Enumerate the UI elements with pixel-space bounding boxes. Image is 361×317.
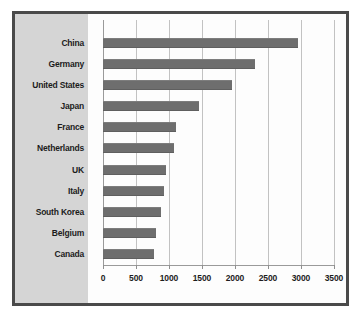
- axis-tick-label: 2000: [226, 273, 245, 283]
- axis-tick-label: 1000: [160, 273, 179, 283]
- bar-rect: [103, 38, 298, 48]
- bar-row: Canada: [88, 244, 346, 265]
- bar-row: Germany: [88, 53, 346, 74]
- bar-category-label: Netherlands: [37, 143, 84, 153]
- bars-layer: ChinaGermanyUnited StatesJapanFranceNeth…: [88, 14, 346, 303]
- axis-tick-label: 3500: [325, 273, 344, 283]
- bar-category-label: Canada: [54, 249, 84, 259]
- axis-tick-3500: [334, 265, 335, 269]
- axis-tick-1500: [202, 265, 203, 269]
- bar-rect: [103, 101, 199, 111]
- bar-category-label: UK: [72, 165, 84, 175]
- bar-row: UK: [88, 159, 346, 180]
- category-label-panel: [15, 14, 88, 303]
- axis-tick-2500: [268, 265, 269, 269]
- bar-rect: [103, 186, 164, 196]
- axis-tick-500: [136, 265, 137, 269]
- bar-rect: [103, 249, 154, 259]
- bar-category-label: United States: [32, 80, 84, 90]
- bar-row: China: [88, 32, 346, 53]
- x-axis-line: [103, 265, 334, 266]
- bar-rect: [103, 143, 174, 153]
- axis-tick-1000: [169, 265, 170, 269]
- axis-tick-label: 1500: [193, 273, 212, 283]
- bar-category-label: Germany: [49, 59, 84, 69]
- axis-tick-label: 3000: [292, 273, 311, 283]
- bar-rect: [103, 165, 166, 175]
- bar-row: South Korea: [88, 201, 346, 222]
- bar-row: France: [88, 117, 346, 138]
- bar-category-label: China: [61, 38, 84, 48]
- axis-tick-2000: [235, 265, 236, 269]
- axis-tick-label: 0: [101, 273, 106, 283]
- bar-rect: [103, 122, 176, 132]
- bar-rect: [103, 228, 156, 238]
- bar-category-label: Italy: [68, 186, 84, 196]
- bar-category-label: South Korea: [36, 207, 84, 217]
- bar-rect: [103, 207, 161, 217]
- bar-row: Netherlands: [88, 138, 346, 159]
- axis-tick-label: 500: [129, 273, 143, 283]
- figure-inner-background: ChinaGermanyUnited StatesJapanFranceNeth…: [15, 14, 346, 303]
- bar-rect: [103, 80, 232, 90]
- bar-row: Italy: [88, 180, 346, 201]
- bar-row: Japan: [88, 96, 346, 117]
- axis-tick-0: [103, 265, 104, 269]
- bar-chart-figure: ChinaGermanyUnited StatesJapanFranceNeth…: [12, 11, 349, 306]
- bar-category-label: Japan: [60, 101, 84, 111]
- bar-row: United States: [88, 74, 346, 95]
- bar-category-label: France: [57, 122, 84, 132]
- bar-rect: [103, 59, 255, 69]
- plot-area: ChinaGermanyUnited StatesJapanFranceNeth…: [88, 14, 346, 303]
- bar-category-label: Belgium: [52, 228, 84, 238]
- axis-tick-3000: [301, 265, 302, 269]
- axis-tick-label: 2500: [259, 273, 278, 283]
- bar-row: Belgium: [88, 223, 346, 244]
